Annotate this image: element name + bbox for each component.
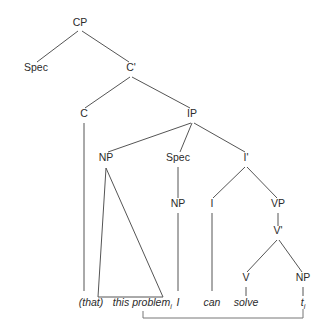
syntax-tree-figure: CPSpecC'CIPNPSpecI'NPIVPV'VNP (that)this… <box>0 0 324 326</box>
branch-IP-to-Spec_IP <box>180 123 192 152</box>
node-label-NP_obj: NP <box>296 271 311 283</box>
node-label-NP_top: NP <box>99 151 114 163</box>
leaf-label-this: this <box>113 296 130 308</box>
node-label-NP_sub: NP <box>171 197 186 209</box>
node-label-V: V <box>242 271 249 283</box>
node-label-CP: CP <box>73 16 88 28</box>
branch-Cbar-to-IP <box>132 77 190 108</box>
leaf-label-can: can <box>204 296 221 308</box>
leaf-label-trace: ti <box>301 296 306 310</box>
branch-Vbar-to-V <box>247 240 277 272</box>
movement-arrow-group <box>143 309 303 318</box>
branch-Ibar-to-I <box>213 167 245 198</box>
node-label-Cbar: C' <box>126 61 136 73</box>
branch-IP-to-NP_top <box>108 123 191 152</box>
node-label-Ibar: I' <box>244 151 249 163</box>
branch-IP-to-Ibar <box>194 123 245 152</box>
node-labels-group: CPSpecC'CIPNPSpecI'NPIVPV'VNP <box>24 16 310 283</box>
leaf-subscript-problem: i <box>170 303 172 310</box>
leaf-label-problem: problemi <box>131 296 172 310</box>
leaf-label-solve: solve <box>234 296 259 308</box>
node-label-Vbar: V' <box>273 224 282 236</box>
leaf-label-I_leaf: I <box>177 296 180 308</box>
leaf-labels-group: (that)thisproblemiIcansolveti <box>79 296 306 310</box>
np-constituent-triangle <box>98 168 163 297</box>
node-label-C: C <box>80 107 88 119</box>
node-label-IP: IP <box>187 107 197 119</box>
node-label-Spec_IP: Spec <box>166 151 190 163</box>
np-triangle-group <box>98 168 163 297</box>
node-label-Spec_CP: Spec <box>24 61 48 73</box>
branch-CP-to-Spec_CP <box>37 31 78 62</box>
node-label-I: I <box>211 197 214 209</box>
branch-CP-to-Cbar <box>82 31 129 62</box>
branch-Ibar-to-VP <box>247 167 277 198</box>
leaf-subscript-trace: i <box>304 303 306 310</box>
node-label-VP: VP <box>271 197 285 209</box>
movement-arrow-path <box>143 309 303 318</box>
branch-lines-group <box>37 31 303 296</box>
leaf-label-that: (that) <box>79 296 104 308</box>
syntax-tree-canvas: CPSpecC'CIPNPSpecI'NPIVPV'VNP (that)this… <box>0 0 324 326</box>
branch-Vbar-to-NP_obj <box>279 240 302 272</box>
branch-Cbar-to-C <box>85 77 130 108</box>
